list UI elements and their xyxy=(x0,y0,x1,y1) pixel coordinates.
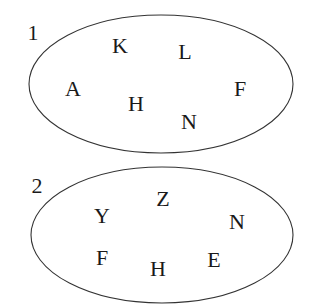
set-number-label: 1 xyxy=(28,20,39,45)
set-element: K xyxy=(112,33,128,58)
set-element: Z xyxy=(156,186,169,211)
set-element: F xyxy=(96,245,108,270)
diagram-svg: 1KLAHNF2ZYNFHE xyxy=(0,0,311,305)
set-element: N xyxy=(229,209,245,234)
set-element: Y xyxy=(94,203,110,228)
set-element: N xyxy=(181,109,197,134)
set-1: 1KLAHNF xyxy=(28,15,294,153)
set-element: H xyxy=(150,256,166,281)
set-element: F xyxy=(234,76,246,101)
set-number-label: 2 xyxy=(32,173,43,198)
set-2: 2ZYNFHE xyxy=(31,167,293,303)
set-diagram: 1KLAHNF2ZYNFHE xyxy=(0,0,311,305)
set-element: H xyxy=(128,91,144,116)
set-element: A xyxy=(65,76,81,101)
set-element: L xyxy=(178,39,191,64)
set-element: E xyxy=(207,247,220,272)
